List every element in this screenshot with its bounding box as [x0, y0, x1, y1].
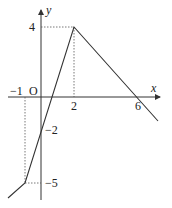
tick-y-minus2: −2: [45, 123, 58, 137]
tick-x-minus1: −1: [10, 84, 23, 98]
function-graph: y x O −1 2 6 4 −2 −5: [0, 0, 172, 208]
tick-x-6: 6: [135, 99, 141, 113]
x-axis-label: x: [150, 81, 157, 95]
y-axis-label: y: [45, 3, 52, 17]
origin-label: O: [29, 84, 38, 98]
tick-y-minus5: −5: [45, 176, 58, 190]
tick-x-2: 2: [71, 99, 77, 113]
tick-y-4: 4: [29, 20, 35, 34]
